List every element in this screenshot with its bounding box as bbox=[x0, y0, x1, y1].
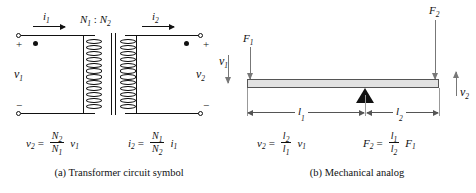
force-arrow-f1 bbox=[250, 47, 251, 79]
force-label-f2: F2 bbox=[429, 5, 439, 16]
coil-loop bbox=[120, 80, 136, 85]
coil-loop bbox=[120, 57, 136, 62]
fraction-l1-over-l2: l1 l2 bbox=[389, 131, 400, 154]
current-arrow-i1 bbox=[33, 26, 65, 27]
caption-panel-b: (b) Mechanical analog bbox=[238, 167, 476, 178]
coil-secondary bbox=[120, 39, 136, 109]
voltage-label-v2: v2 bbox=[196, 68, 205, 80]
velocity-arrow-v2 bbox=[456, 72, 457, 96]
coil-loop bbox=[120, 74, 136, 79]
polarity-minus-left: − bbox=[16, 100, 22, 111]
polarity-plus-right: + bbox=[203, 39, 209, 50]
equation-voltage-transformer: v2 = N2 N1 v1 bbox=[26, 131, 79, 154]
dimension-label-l2: l2 bbox=[393, 105, 406, 120]
coil-loop bbox=[86, 45, 102, 50]
current-arrow-i2 bbox=[142, 26, 174, 27]
coil-loop bbox=[120, 63, 136, 68]
polarity-minus-right: − bbox=[203, 100, 209, 111]
coil-loop bbox=[86, 74, 102, 79]
terminal-secondary-bottom bbox=[198, 111, 203, 116]
coil-loop bbox=[86, 68, 102, 73]
voltage-label-v1: v1 bbox=[14, 68, 23, 80]
fraction-l2-over-l1: l2 l1 bbox=[281, 131, 292, 154]
polarity-dot-primary bbox=[33, 41, 38, 46]
panel-transformer-circuit: i1 N1 : N2 i2 + − v1 + bbox=[0, 0, 238, 193]
core-line-left bbox=[111, 33, 112, 115]
fraction-n1-over-n2: N1 N2 bbox=[150, 131, 164, 154]
wire-secondary-bottom bbox=[136, 113, 199, 114]
coil-loop bbox=[86, 80, 102, 85]
equation-current-transformer: i2 = N1 N2 i1 bbox=[128, 131, 177, 154]
current-label-i1: i1 bbox=[43, 11, 50, 22]
coil-loop bbox=[120, 92, 136, 97]
fraction-n2-over-n1: N2 N1 bbox=[50, 131, 64, 154]
equation-velocity-lever: v2 = l2 l1 v1 bbox=[257, 131, 306, 154]
coil-loop bbox=[86, 63, 102, 68]
force-label-f1: F1 bbox=[243, 33, 253, 44]
coil-primary bbox=[86, 39, 102, 109]
equation-force-lever: F2 = l1 l2 F1 bbox=[363, 131, 416, 154]
coil-loop bbox=[120, 45, 136, 50]
coil-primary-bottom-lead bbox=[83, 113, 95, 114]
figure-transformer-mechanical-analog: i1 N1 : N2 i2 + − v1 + bbox=[0, 0, 476, 193]
current-label-i2: i2 bbox=[152, 11, 159, 22]
polarity-dot-secondary bbox=[184, 41, 189, 46]
coil-loop bbox=[86, 39, 102, 44]
coil-loop bbox=[120, 68, 136, 73]
coil-loop bbox=[86, 98, 102, 103]
coil-loop bbox=[86, 104, 102, 109]
force-arrow-f2 bbox=[435, 20, 436, 79]
wire-primary-top bbox=[21, 35, 83, 36]
coil-loop bbox=[120, 104, 136, 109]
coil-loop bbox=[86, 92, 102, 97]
core-line-right bbox=[115, 33, 116, 115]
wire-secondary-top bbox=[136, 35, 199, 36]
coil-loop bbox=[86, 51, 102, 56]
velocity-label-v2: v2 bbox=[460, 86, 469, 98]
coil-loop bbox=[120, 51, 136, 56]
coil-loop bbox=[120, 39, 136, 44]
velocity-arrow-v1 bbox=[228, 55, 229, 83]
turns-ratio-label: N1 : N2 bbox=[80, 14, 111, 25]
caption-panel-a: (a) Transformer circuit symbol bbox=[0, 167, 238, 178]
coil-primary-top-lead bbox=[83, 35, 95, 36]
velocity-label-v1: v1 bbox=[219, 55, 228, 67]
wire-primary-bottom bbox=[21, 113, 83, 114]
panel-mechanical-analog: F1 v1 F2 v2 l1 l2 v2 = l2 l1 bbox=[238, 0, 476, 193]
coil-loop bbox=[120, 98, 136, 103]
polarity-plus-left: + bbox=[16, 39, 22, 50]
coil-loop bbox=[120, 86, 136, 91]
coil-loop bbox=[86, 57, 102, 62]
coil-secondary-spine bbox=[136, 35, 137, 114]
coil-primary-spine bbox=[83, 35, 84, 114]
extension-line-right bbox=[439, 88, 440, 116]
lever-beam bbox=[247, 79, 439, 88]
coil-loop bbox=[86, 86, 102, 91]
dimension-label-l1: l1 bbox=[295, 105, 308, 120]
